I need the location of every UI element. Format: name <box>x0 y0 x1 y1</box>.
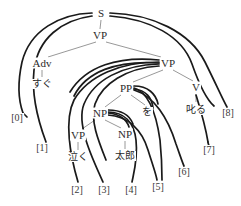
word-sugu: すぐ <box>31 79 53 89</box>
index-marker-0: [0] <box>10 113 24 123</box>
node-np-lower: NP <box>117 129 133 140</box>
index-marker-3: [3] <box>97 185 111 195</box>
index-marker-5: [5] <box>151 182 165 192</box>
index-marker-8: [8] <box>221 108 235 118</box>
word-naku: 泣く <box>67 152 89 162</box>
node-np-upper: NP <box>92 108 108 119</box>
index-marker-1: [1] <box>35 143 49 153</box>
node-vp-top: VP <box>92 30 108 41</box>
word-shikaru: 叱る <box>185 105 207 115</box>
node-v: V <box>191 82 201 93</box>
node-adv: Adv <box>32 58 53 69</box>
parse-tree-diagram: S VP Adv VP V PP NP VP NP すぐ 叱る を 泣く 太郎 … <box>0 0 241 206</box>
node-vp-right: VP <box>160 58 176 69</box>
index-marker-2: [2] <box>70 185 84 195</box>
index-marker-7: [7] <box>202 145 216 155</box>
node-pp: PP <box>119 83 133 94</box>
word-wo: を <box>141 107 153 117</box>
node-s: S <box>97 8 105 19</box>
index-marker-6: [6] <box>177 167 191 177</box>
word-taro: 太郎 <box>114 151 136 161</box>
index-marker-4: [4] <box>124 185 138 195</box>
node-label-layer: S VP Adv VP V PP NP VP NP すぐ 叱る を 泣く 太郎 … <box>0 0 241 206</box>
node-vp-low: VP <box>70 130 86 141</box>
